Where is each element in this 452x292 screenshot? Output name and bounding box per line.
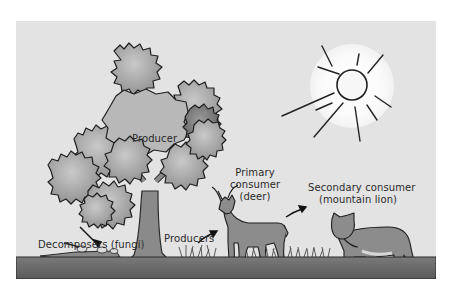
- label-producer-tree: Producer: [132, 133, 177, 145]
- arrow-deer-to-lion-icon: [286, 206, 306, 217]
- sun-icon: [282, 44, 394, 141]
- food-chain-diagram: Producer Decomposers (fungi) Producers P…: [16, 21, 436, 279]
- label-secondary-line1: Secondary consumer: [308, 182, 408, 194]
- label-decomposers: Decomposers (fungi): [38, 239, 145, 251]
- tree-illustration: [48, 43, 226, 263]
- label-producers-grass: Producers: [164, 233, 214, 245]
- ground: [16, 257, 436, 279]
- label-primary-consumer: Primary consumer (deer): [230, 167, 280, 203]
- label-secondary-consumer: Secondary consumer (mountain lion): [308, 182, 408, 206]
- label-primary-line1: Primary: [230, 167, 280, 179]
- label-primary-line3: (deer): [230, 191, 280, 203]
- label-secondary-line2: (mountain lion): [308, 194, 408, 206]
- label-primary-line2: consumer: [230, 179, 280, 191]
